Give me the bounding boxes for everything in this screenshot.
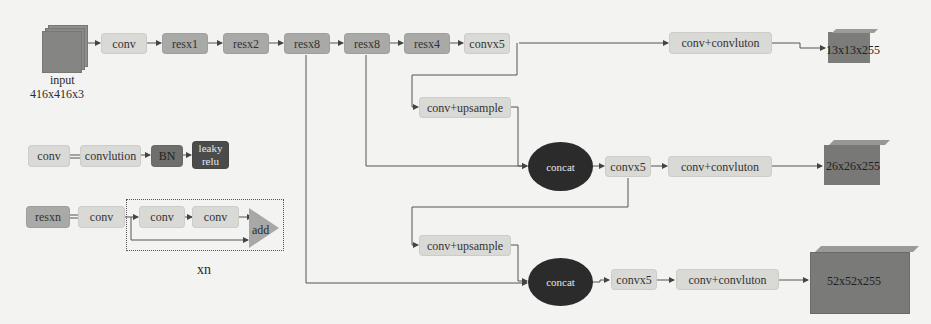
- legend-bn-node: BN: [151, 145, 183, 167]
- legend-res-conv-b-node: conv: [192, 206, 239, 228]
- repeat-n-label: xn: [197, 262, 211, 278]
- head52-conv-upsample-node: conv+upsample: [419, 235, 511, 256]
- head26-concat-node: concat: [528, 142, 593, 191]
- head52-conv-convluton-node: conv+convluton: [676, 269, 779, 290]
- head26-conv-upsample-node: conv+upsample: [419, 97, 511, 118]
- legend-resn-node: resxn: [26, 206, 70, 228]
- backbone-res1-node: resx1: [162, 33, 208, 54]
- output-52-label: 52x52x255: [827, 274, 881, 289]
- backbone-res8-node-2: resx8: [344, 33, 390, 54]
- legend-res-conv-a-node: conv: [139, 206, 185, 228]
- backbone-res8-node-1: resx8: [284, 33, 330, 54]
- head52-concat-node: concat: [528, 258, 593, 306]
- backbone-conv-node: conv: [101, 33, 147, 54]
- backbone-res4-node: resx4: [404, 33, 450, 54]
- yolov3-architecture-diagram: input 416x416x3 conv resx1 resx2 resx8 r…: [0, 0, 931, 324]
- head13-convx5-node: convx5: [464, 33, 510, 54]
- legend-convlution-node: convlution: [80, 145, 141, 167]
- legend-leaky-relu-node: leaky relu: [192, 141, 229, 169]
- head26-conv-convluton-node: conv+convluton: [668, 156, 772, 177]
- backbone-res2-node: resx2: [223, 33, 269, 54]
- head26-convx5-node: convx5: [605, 156, 651, 177]
- add-label: add: [252, 223, 269, 238]
- legend-res-conv-node: conv: [78, 206, 125, 228]
- output-26-label: 26x26x255: [826, 159, 880, 174]
- input-label: input: [50, 73, 75, 88]
- head13-conv-convluton-node: conv+convluton: [669, 32, 772, 54]
- output-13-label: 13x13x255: [826, 43, 880, 58]
- head52-convx5-node: convx5: [611, 269, 657, 290]
- input-size-label: 416x416x3: [30, 87, 84, 102]
- legend-conv-node: conv: [28, 145, 70, 167]
- leaky-label: leaky: [199, 143, 223, 154]
- relu-label: relu: [202, 156, 219, 167]
